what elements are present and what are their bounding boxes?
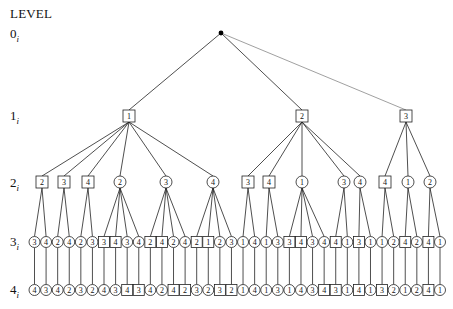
l3-node-square-4: 4 [423, 237, 434, 248]
l3-node-circle-1: 1 [342, 237, 353, 248]
l3-node-circle-2: 2 [168, 237, 179, 248]
svg-text:3: 3 [380, 286, 384, 295]
l4-node-circle-3: 3 [307, 285, 318, 296]
svg-text:4: 4 [426, 238, 430, 247]
svg-text:2: 2 [79, 238, 83, 247]
svg-text:3: 3 [276, 286, 280, 295]
svg-text:1: 1 [206, 238, 210, 247]
svg-text:3: 3 [342, 178, 346, 187]
l3-node-circle-3: 3 [122, 237, 133, 248]
svg-text:1: 1 [264, 286, 268, 295]
svg-text:1: 1 [300, 178, 304, 187]
l3-node-circle-2: 2 [411, 237, 422, 248]
l2-node-square-4: 4 [82, 176, 94, 188]
l2-node-circle-3: 3 [160, 176, 172, 188]
svg-text:1: 1 [264, 238, 268, 247]
l4-node-square-4: 4 [353, 285, 364, 296]
l2-node-square-3: 3 [242, 176, 254, 188]
l3-node-circle-3: 3 [226, 237, 237, 248]
svg-text:4: 4 [267, 178, 271, 187]
svg-text:2: 2 [218, 238, 222, 247]
svg-text:4: 4 [86, 178, 90, 187]
l1-node-square-3: 3 [400, 110, 412, 122]
svg-text:3: 3 [90, 238, 94, 247]
svg-text:4: 4 [33, 286, 37, 295]
l3-node-circle-1: 1 [435, 237, 446, 248]
svg-text:4: 4 [253, 286, 257, 295]
l3-node-circle-2: 2 [75, 237, 86, 248]
svg-text:4: 4 [172, 286, 176, 295]
svg-text:2: 2 [148, 238, 152, 247]
svg-text:4: 4 [44, 238, 48, 247]
search-tree-diagram: LEVEL 0i 1i 2i 3i 4i 1232342343413441234… [0, 0, 453, 309]
svg-text:3: 3 [114, 286, 118, 295]
l3-node-circle-2: 2 [52, 237, 63, 248]
svg-text:4: 4 [183, 238, 187, 247]
l3-node-circle-3: 3 [272, 237, 283, 248]
l3-node-square-3: 3 [99, 237, 110, 248]
l3-node-square-2: 2 [191, 237, 202, 248]
l3-node-square-4: 4 [110, 237, 121, 248]
svg-text:1: 1 [287, 286, 291, 295]
l4-node-circle-3: 3 [191, 285, 202, 296]
l3-node-circle-2: 2 [214, 237, 225, 248]
l1-node-square-1: 1 [123, 110, 135, 122]
svg-text:4: 4 [403, 238, 407, 247]
svg-text:1: 1 [345, 286, 349, 295]
svg-text:2: 2 [160, 286, 164, 295]
svg-text:3: 3 [311, 286, 315, 295]
svg-text:2: 2 [195, 238, 199, 247]
l3-node-circle-1: 1 [377, 237, 388, 248]
svg-text:4: 4 [358, 178, 362, 187]
svg-text:4: 4 [102, 286, 106, 295]
svg-text:4: 4 [299, 286, 303, 295]
svg-text:2: 2 [40, 178, 44, 187]
l2-node-circle-1: 1 [402, 176, 414, 188]
l4-node-circle-3: 3 [41, 285, 52, 296]
l3-node-circle-4: 4 [41, 237, 52, 248]
svg-text:2: 2 [206, 286, 210, 295]
svg-text:2: 2 [90, 286, 94, 295]
l4-node-circle-1: 1 [284, 285, 295, 296]
svg-text:4: 4 [148, 286, 152, 295]
l3-node-square-4: 4 [295, 237, 306, 248]
l2-node-square-2: 2 [36, 176, 48, 188]
svg-text:3: 3 [33, 238, 37, 247]
l4-node-square-3: 3 [330, 285, 341, 296]
l3-node-square-3: 3 [284, 237, 295, 248]
svg-text:4: 4 [56, 286, 60, 295]
l3-node-circle-1: 1 [365, 237, 376, 248]
svg-text:1: 1 [368, 286, 372, 295]
svg-text:3: 3 [311, 238, 315, 247]
l4-node-circle-4: 4 [52, 285, 63, 296]
svg-text:2: 2 [415, 286, 419, 295]
svg-text:3: 3 [79, 286, 83, 295]
l4-node-circle-2: 2 [87, 285, 98, 296]
l3-node-square-1: 1 [203, 237, 214, 248]
l4-node-square-2: 2 [226, 285, 237, 296]
l2-node-circle-4: 4 [354, 176, 366, 188]
svg-text:3: 3 [137, 286, 141, 295]
svg-text:2: 2 [392, 238, 396, 247]
l3-node-square-3: 3 [353, 237, 364, 248]
svg-text:3: 3 [164, 178, 168, 187]
svg-text:4: 4 [426, 286, 430, 295]
svg-text:3: 3 [44, 286, 48, 295]
l2-node-circle-3: 3 [338, 176, 350, 188]
l2-node-circle-1: 1 [296, 176, 308, 188]
l4-node-circle-1: 1 [365, 285, 376, 296]
svg-text:4: 4 [137, 238, 141, 247]
svg-text:1: 1 [406, 178, 410, 187]
l4-node-square-4: 4 [168, 285, 179, 296]
svg-text:2: 2 [392, 286, 396, 295]
l4-node-square-3: 3 [377, 285, 388, 296]
svg-text:3: 3 [334, 286, 338, 295]
l2-node-circle-4: 4 [207, 176, 219, 188]
l3-node-square-4: 4 [156, 237, 167, 248]
l3-node-square-4: 4 [330, 237, 341, 248]
svg-text:2: 2 [172, 238, 176, 247]
svg-text:4: 4 [67, 238, 71, 247]
l4-node-circle-2: 2 [388, 285, 399, 296]
l4-node-circle-2: 2 [156, 285, 167, 296]
svg-text:2: 2 [229, 286, 233, 295]
